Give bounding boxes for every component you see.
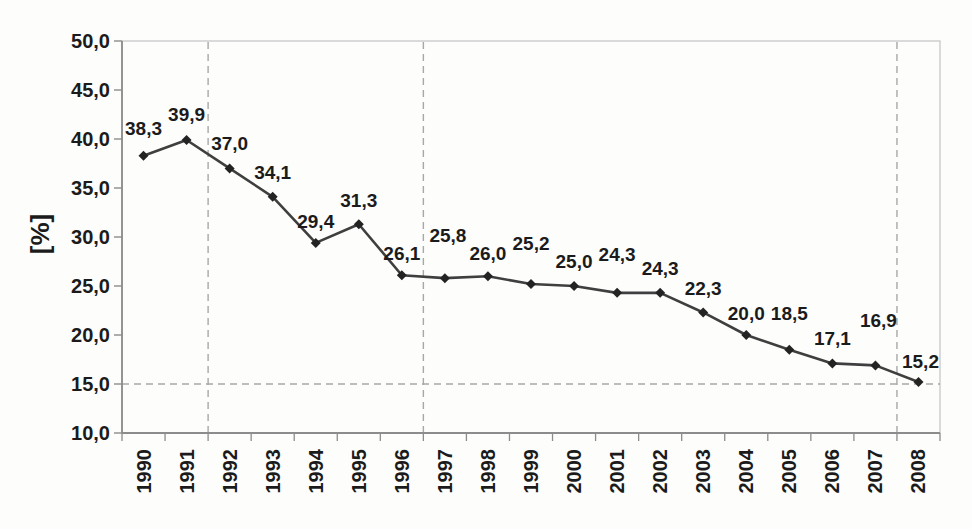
data-point <box>698 307 708 317</box>
x-tick-label: 1990 <box>133 449 155 494</box>
x-tick-label: 1991 <box>176 449 198 494</box>
y-tick-label: 15,0 <box>71 373 110 395</box>
data-point <box>913 377 923 387</box>
data-point <box>569 281 579 291</box>
data-point <box>612 288 622 298</box>
x-tick-label: 2003 <box>692 449 714 494</box>
data-label: 26,0 <box>469 243 506 264</box>
x-tick-label: 1992 <box>219 449 241 494</box>
data-point <box>870 360 880 370</box>
data-point <box>526 279 536 289</box>
data-label: 29,4 <box>297 211 334 232</box>
y-tick-label: 10,0 <box>71 422 110 444</box>
x-tick-label: 2000 <box>563 449 585 494</box>
x-tick-label: 2006 <box>821 449 843 494</box>
data-point <box>741 330 751 340</box>
data-point <box>784 345 794 355</box>
x-tick-label: 1996 <box>391 449 413 494</box>
x-tick-label: 2007 <box>864 449 886 494</box>
data-label: 24,3 <box>642 258 679 279</box>
data-label: 17,1 <box>814 328 851 349</box>
x-tick-label: 2005 <box>778 449 800 494</box>
data-point <box>827 358 837 368</box>
data-point <box>655 288 665 298</box>
data-label: 25,0 <box>556 251 593 272</box>
data-label: 38,3 <box>125 118 162 139</box>
data-label: 22,3 <box>685 278 722 299</box>
y-tick-label: 45,0 <box>71 79 110 101</box>
x-tick-label: 2004 <box>735 448 757 493</box>
x-tick-label: 1994 <box>305 448 327 493</box>
data-label: 39,9 <box>168 104 205 125</box>
x-tick-label: 2002 <box>649 449 671 494</box>
data-label: 25,2 <box>513 233 550 254</box>
data-label: 24,3 <box>599 244 636 265</box>
x-tick-label: 2008 <box>907 449 929 494</box>
y-tick-label: 40,0 <box>71 128 110 150</box>
y-tick-label: 50,0 <box>71 30 110 52</box>
y-tick-label: 35,0 <box>71 177 110 199</box>
chart-svg: 50,045,040,035,030,025,020,015,010,01990… <box>0 0 972 529</box>
data-label: 16,9 <box>860 310 897 331</box>
chart-figure: [%] 50,045,040,035,030,025,020,015,010,0… <box>0 0 972 529</box>
x-tick-label: 1993 <box>262 449 284 494</box>
data-label: 20,0 <box>728 303 765 324</box>
x-tick-label: 1998 <box>477 449 499 494</box>
data-label: 37,0 <box>211 133 248 154</box>
x-tick-label: 1997 <box>434 449 456 494</box>
y-tick-label: 30,0 <box>71 226 110 248</box>
data-label: 26,1 <box>383 243 420 264</box>
data-point <box>440 273 450 283</box>
y-tick-label: 20,0 <box>71 324 110 346</box>
data-label: 34,1 <box>254 162 291 183</box>
x-tick-label: 1999 <box>520 449 542 494</box>
data-label: 15,2 <box>902 351 939 372</box>
data-point <box>483 271 493 281</box>
data-label: 31,3 <box>340 190 377 211</box>
data-point <box>139 151 149 161</box>
data-label: 18,5 <box>771 303 808 324</box>
x-tick-label: 1995 <box>348 449 370 494</box>
y-tick-label: 25,0 <box>71 275 110 297</box>
x-tick-label: 2001 <box>606 449 628 494</box>
data-label: 25,8 <box>429 225 466 246</box>
